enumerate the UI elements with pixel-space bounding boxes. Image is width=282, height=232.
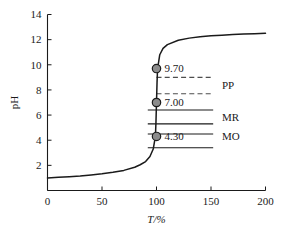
y-tick-label: 6 xyxy=(36,109,42,121)
y-axis-tick-labels: 2468101214 xyxy=(31,8,43,171)
y-tick-label: 14 xyxy=(31,8,43,20)
marked-point-labels: 9.707.004.30 xyxy=(165,62,185,142)
y-tick-label: 8 xyxy=(36,84,42,96)
marked-point-label: 7.00 xyxy=(165,96,185,108)
y-tick-label: 12 xyxy=(31,33,42,45)
y-axis-ticks xyxy=(48,15,52,166)
y-axis-title: pH xyxy=(8,96,20,110)
y-tick-label: 2 xyxy=(36,159,42,171)
indicator-label-mo: MO xyxy=(222,130,240,142)
x-tick-label: 100 xyxy=(148,195,165,207)
x-axis-ticks xyxy=(48,187,266,191)
marked-point-label: 9.70 xyxy=(165,62,185,74)
indicator-label-pp: PP xyxy=(222,79,234,91)
indicator-label-mr: MR xyxy=(222,111,240,123)
indicator-labels: PPMRMO xyxy=(222,79,240,142)
marked-point xyxy=(152,64,160,72)
x-axis-tick-labels: 050100150200 xyxy=(45,195,275,207)
marked-point-label: 4.30 xyxy=(165,130,185,142)
y-tick-label: 10 xyxy=(31,59,43,71)
y-tick-label: 4 xyxy=(36,134,42,146)
marked-points-group xyxy=(152,64,160,140)
x-tick-label: 50 xyxy=(97,195,109,207)
marked-point xyxy=(152,132,160,140)
x-axis-title: T/% xyxy=(147,213,165,225)
chart-svg: 2468101214 050100150200 pH T/% 9.707.004… xyxy=(0,0,282,232)
x-tick-label: 150 xyxy=(203,195,220,207)
titration-curve-chart: 2468101214 050100150200 pH T/% 9.707.004… xyxy=(0,0,282,232)
marked-point xyxy=(152,98,160,106)
x-tick-label: 200 xyxy=(257,195,274,207)
x-tick-label: 0 xyxy=(45,195,51,207)
